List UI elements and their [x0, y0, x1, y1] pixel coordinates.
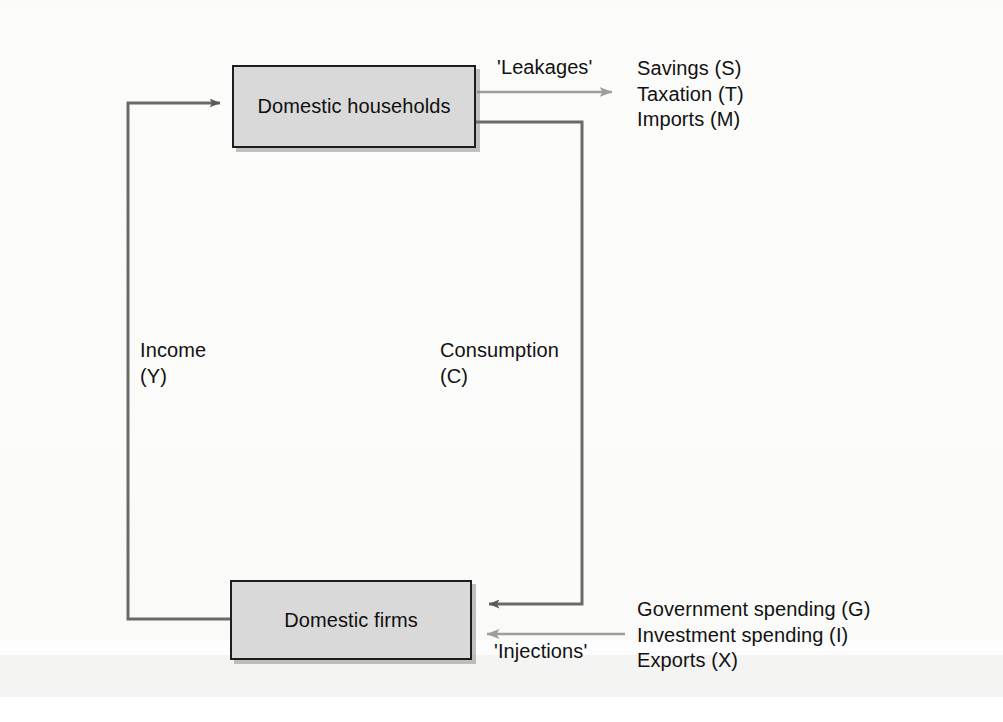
diagram-canvas: Domestic households Domestic firms Incom…: [0, 0, 1003, 722]
node-domestic-households[interactable]: Domestic households: [232, 65, 476, 148]
injections-heading: 'Injections': [494, 640, 587, 663]
consumption-flow-label-line2: (C): [440, 364, 559, 390]
consumption-flow-label-line1: Consumption: [440, 338, 559, 364]
leakages-item-taxation: Taxation (T): [637, 82, 744, 108]
consumption-flow-label: Consumption (C): [440, 338, 559, 389]
income-flow-label-line2: (Y): [140, 364, 206, 390]
leakages-list: Savings (S) Taxation (T) Imports (M): [637, 56, 744, 133]
injections-item-exports: Exports (X): [637, 648, 871, 674]
injections-list: Government spending (G) Investment spend…: [637, 597, 871, 674]
node-domestic-firms[interactable]: Domestic firms: [230, 580, 472, 660]
injections-item-investment-spending: Investment spending (I): [637, 623, 871, 649]
income-flow-label-line1: Income: [140, 338, 206, 364]
leakages-item-imports: Imports (M): [637, 107, 744, 133]
node-domestic-households-label: Domestic households: [257, 95, 450, 118]
injections-item-government-spending: Government spending (G): [637, 597, 871, 623]
leakages-heading: 'Leakages': [497, 56, 592, 79]
income-flow-label: Income (Y): [140, 338, 206, 389]
leakages-item-savings: Savings (S): [637, 56, 744, 82]
node-domestic-firms-label: Domestic firms: [284, 609, 418, 632]
